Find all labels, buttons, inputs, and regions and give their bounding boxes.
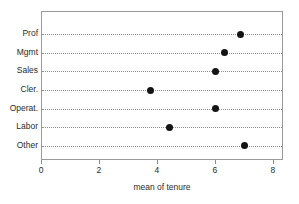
x-axis-tick-label: 2 xyxy=(97,166,102,175)
data-point xyxy=(147,87,154,94)
gridline xyxy=(42,90,282,91)
data-point xyxy=(212,68,219,75)
x-axis-tick-mark xyxy=(215,160,216,164)
data-point xyxy=(221,49,228,56)
y-axis-label: Other xyxy=(0,141,38,150)
x-axis-tick-mark xyxy=(99,160,100,164)
gridline xyxy=(42,71,282,72)
x-axis-tick-mark xyxy=(157,160,158,164)
x-axis-tick-label: 4 xyxy=(155,166,160,175)
y-axis-category-labels: ProfMgmtSalesCler.Operat.LaborOther xyxy=(0,11,38,160)
x-axis-tick-mark xyxy=(273,160,274,164)
y-axis-label: Cler. xyxy=(0,85,38,94)
plot-area xyxy=(41,11,283,160)
y-axis-label: Labor xyxy=(0,122,38,131)
data-point xyxy=(166,124,173,131)
gridline xyxy=(42,127,282,128)
data-point xyxy=(212,105,219,112)
gridline xyxy=(42,34,282,35)
y-axis-label: Mgmt xyxy=(0,48,38,57)
y-axis-label: Sales xyxy=(0,66,38,75)
gridline xyxy=(42,109,282,110)
x-axis-tick-label: 0 xyxy=(39,166,44,175)
data-point xyxy=(237,31,244,38)
dot-plot-chart: ProfMgmtSalesCler.Operat.LaborOther 0246… xyxy=(0,0,299,204)
data-point xyxy=(241,142,248,149)
x-axis-tick-mark xyxy=(41,160,42,164)
gridline xyxy=(42,53,282,54)
x-axis-tick-label: 8 xyxy=(270,166,275,175)
x-axis-title: mean of tenure xyxy=(41,183,283,192)
x-axis-tick-label: 6 xyxy=(213,166,218,175)
y-axis-label: Operat. xyxy=(0,103,38,112)
y-axis-label: Prof xyxy=(0,29,38,38)
